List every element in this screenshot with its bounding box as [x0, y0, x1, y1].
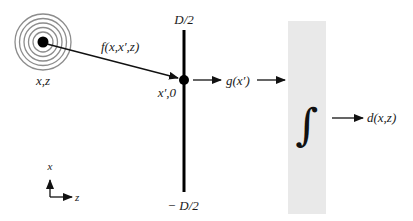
diagram-canvas: x,z f(x,x′,z) D/2 − D/2 x′,0 g(x′) ∫ d(x… [0, 0, 413, 221]
aperture-top-label: D/2 [173, 12, 194, 27]
aperture-point-label: x′,0 [157, 85, 177, 100]
axis-z-label: z [74, 191, 80, 203]
aperture-point [179, 75, 189, 85]
signal-label: g(x′) [226, 73, 250, 88]
source-label: x,z [35, 73, 50, 88]
propagation-label: f(x,x′,z) [101, 39, 139, 54]
integral-icon: ∫ [296, 99, 319, 150]
axis-x-label: x [47, 160, 53, 172]
aperture-bottom-label: − D/2 [167, 198, 199, 213]
axes-indicator [50, 180, 72, 197]
source-rings-icon [15, 14, 71, 70]
output-label: d(x,z) [367, 110, 396, 125]
